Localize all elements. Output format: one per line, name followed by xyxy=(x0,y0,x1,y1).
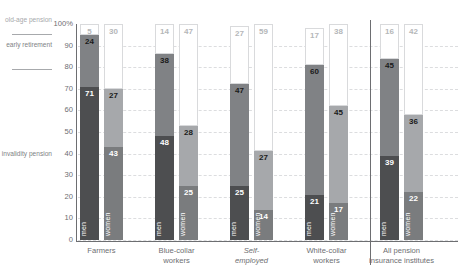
segment-value-label: 28 xyxy=(179,129,198,137)
segment-value-label: 47 xyxy=(180,28,197,36)
segment-value-label: 45 xyxy=(380,62,399,70)
bar-gender-label-men: men xyxy=(305,202,324,236)
y-axis-tick-30: 30 xyxy=(52,171,73,179)
segment-value-label: 38 xyxy=(155,57,174,65)
legend-item-early-retirement: early retirement xyxy=(0,41,52,49)
segment-value-label: 27 xyxy=(231,30,248,38)
bar-women-white-collar-workers[interactable]: 174538women xyxy=(329,24,348,240)
segment-value-label: 17 xyxy=(306,32,323,40)
segment-oldage-men: 27 xyxy=(230,26,249,84)
y-axis-tick-10: 10 xyxy=(52,214,73,222)
bar-gender-label-men: men xyxy=(380,202,399,236)
bar-women-farmers[interactable]: 432730women xyxy=(104,24,123,240)
segment-value-label: 25 xyxy=(179,189,198,197)
legend-connector-early-retirement xyxy=(12,69,52,70)
segment-early-men: 60 xyxy=(305,65,324,195)
segment-early-men: 45 xyxy=(380,59,399,156)
segment-oldage-women: 47 xyxy=(179,24,198,126)
bar-gender-label-women: women xyxy=(104,202,123,236)
segment-value-label: 42 xyxy=(405,28,422,36)
segment-value-label: 36 xyxy=(404,118,423,126)
chart-legend: old-age pension early retirement invalid… xyxy=(0,0,56,280)
segment-early-women: 45 xyxy=(329,106,348,203)
segment-oldage-men: 17 xyxy=(305,28,324,65)
segment-value-label: 45 xyxy=(329,109,348,117)
bar-men-blue-collar-workers[interactable]: 483814men xyxy=(155,24,174,240)
stacked-bar-chart: old-age pension early retirement invalid… xyxy=(0,0,464,280)
segment-oldage-men: 16 xyxy=(380,24,399,59)
segment-value-label: 14 xyxy=(156,28,173,36)
segment-value-label: 30 xyxy=(105,28,122,36)
bar-men-white-collar-workers[interactable]: 216017men xyxy=(305,24,324,240)
legend-connector-old-age xyxy=(12,34,52,35)
segment-oldage-women: 42 xyxy=(404,24,423,115)
segment-oldage-men: 14 xyxy=(155,24,174,54)
segment-early-women: 36 xyxy=(404,115,423,193)
chart-title xyxy=(104,0,404,6)
bar-gender-label-men: men xyxy=(80,202,99,236)
bar-gender-label-men: men xyxy=(230,202,249,236)
segment-early-men: 47 xyxy=(230,84,249,186)
y-axis-tick-100pct: 100% xyxy=(52,20,73,28)
segment-early-men: 38 xyxy=(155,54,174,136)
segment-value-label: 43 xyxy=(104,150,123,158)
segment-value-label: 48 xyxy=(155,139,174,147)
bar-gender-label-women: women xyxy=(254,202,273,236)
segment-oldage-men: 5 xyxy=(80,24,99,35)
segment-value-label: 47 xyxy=(230,87,249,95)
segment-early-women: 27 xyxy=(104,89,123,147)
segment-oldage-women: 38 xyxy=(329,24,348,106)
segment-value-label: 38 xyxy=(330,28,347,36)
bar-gender-label-women: women xyxy=(179,202,198,236)
bar-gender-label-women: women xyxy=(404,202,423,236)
segment-value-label: 27 xyxy=(254,154,273,162)
y-axis-tick-40: 40 xyxy=(52,150,73,158)
x-axis-line xyxy=(76,241,458,242)
segment-early-women: 28 xyxy=(179,126,198,186)
bar-women-self-employed[interactable]: 142759women xyxy=(254,24,273,240)
segment-value-label: 16 xyxy=(381,28,398,36)
segment-value-label: 27 xyxy=(104,92,123,100)
segment-value-label: 25 xyxy=(230,189,249,197)
bar-gender-label-men: men xyxy=(155,202,174,236)
bar-men-farmers[interactable]: 71245men xyxy=(80,24,99,240)
segment-value-label: 5 xyxy=(81,28,98,36)
y-axis-line xyxy=(76,24,77,241)
segment-oldage-women: 30 xyxy=(104,24,123,89)
bar-men-self-employed[interactable]: 254727men xyxy=(230,24,249,240)
segment-early-men: 24 xyxy=(80,35,99,87)
segment-value-label: 59 xyxy=(255,28,272,36)
legend-item-old-age-pension: old-age pension xyxy=(0,16,52,24)
y-axis-tick-80: 80 xyxy=(52,63,73,71)
y-axis-tick-70: 70 xyxy=(52,85,73,93)
plot-area: 71245men432730women483814men252847women2… xyxy=(78,24,458,240)
bar-women-all-pension-insurance-institutes[interactable]: 223642women xyxy=(404,24,423,240)
segment-value-label: 39 xyxy=(380,159,399,167)
y-axis-tick-60: 60 xyxy=(52,106,73,114)
segment-value-label: 71 xyxy=(80,90,99,98)
y-axis-tick-50: 50 xyxy=(52,128,73,136)
legend-item-invalidity-pension: invalidity pension xyxy=(0,150,52,158)
y-axis-tick-0: 0 xyxy=(52,236,73,244)
bar-men-all-pension-insurance-institutes[interactable]: 394516men xyxy=(380,24,399,240)
bar-gender-label-women: women xyxy=(329,202,348,236)
segment-value-label: 24 xyxy=(80,38,99,46)
y-axis-tick-90: 90 xyxy=(52,42,73,50)
segment-oldage-women: 59 xyxy=(254,24,273,151)
group-separator-line xyxy=(370,20,371,265)
bar-women-blue-collar-workers[interactable]: 252847women xyxy=(179,24,198,240)
y-axis-tick-20: 20 xyxy=(52,193,73,201)
segment-value-label: 60 xyxy=(305,68,324,76)
